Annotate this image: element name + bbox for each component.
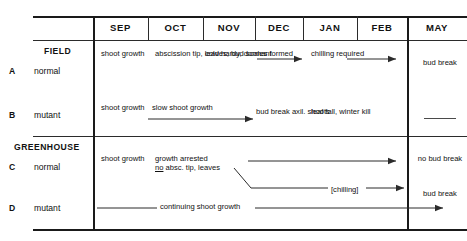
arrow-d-continuing-growth [0,0,467,241]
phenology-table-figure: SEP OCT NOV DEC JAN FEB MAY FIELD A norm… [0,0,467,241]
